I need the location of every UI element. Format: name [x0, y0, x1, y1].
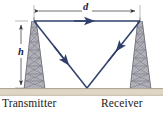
- ground-surface: [0, 88, 163, 96]
- incident-ray-arrow: [54, 46, 66, 61]
- receiver-tower: [130, 18, 151, 89]
- height-label-h: h: [18, 46, 24, 57]
- ground-reflected-signal-path: [34, 21, 140, 88]
- transmitter-label: Transmitter: [2, 97, 56, 109]
- transmitter-tower: [24, 18, 45, 89]
- propagation-diagram: d h Transmitter Receiver: [0, 0, 163, 115]
- reflected-ray-arrow: [108, 48, 119, 62]
- receiver-label: Receiver: [101, 97, 143, 109]
- distance-label-d: d: [83, 1, 88, 12]
